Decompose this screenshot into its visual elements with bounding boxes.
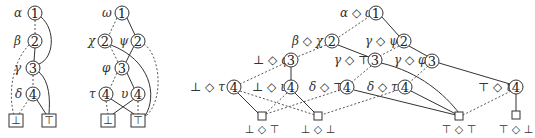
leaf-top-bot [512, 111, 520, 119]
node-l2: 2 [28, 34, 42, 49]
edge-l4-bot [19, 99, 29, 114]
leaf-bottom: ⊥ [101, 114, 115, 127]
left-diagram: α 1 β 2 γ 3 δ 4 ⊥ ⊤ [9, 6, 56, 128]
edge-l2-l3 [34, 48, 35, 61]
edge-m2b-top [144, 44, 158, 117]
node-r3a: 3 [284, 53, 298, 68]
leaf-label: ⊤ ◇ ⊤ [442, 123, 477, 136]
svg-text:3: 3 [428, 54, 436, 69]
leaf-bot-top [258, 112, 266, 120]
edge-r4d-rtt [411, 91, 456, 114]
node-l4: 4 [26, 87, 40, 102]
node-r4a: 4 [227, 80, 241, 95]
edge-m2b-m3 [126, 46, 134, 62]
edge-r4e-rtt [463, 91, 511, 115]
svg-text:2: 2 [400, 34, 408, 49]
node-l1: 1 [28, 6, 42, 21]
node-label: ⊤ ◇ υ [478, 80, 513, 94]
svg-text:2: 2 [328, 34, 336, 49]
svg-text:4: 4 [230, 80, 238, 95]
svg-text:4: 4 [287, 80, 295, 95]
node-m4b: 4 [131, 87, 145, 102]
leaf-label: ⊥ ◇ ⊥ [301, 123, 336, 136]
node-r2a: 2 [325, 34, 339, 49]
svg-text:⊤: ⊤ [133, 114, 143, 127]
node-m1: 1 [115, 6, 129, 21]
svg-text:3: 3 [371, 53, 379, 68]
node-r1: 1 [369, 6, 383, 21]
leaf-top: ⊤ [42, 114, 56, 127]
svg-text:3: 3 [29, 61, 37, 76]
svg-text:1: 1 [372, 6, 380, 21]
node-label: γ ◇ φ [394, 53, 427, 67]
node-r3b: 3 [368, 53, 382, 68]
node-label: δ ◇ ⊤ [309, 80, 344, 94]
node-m2b: 2 [131, 34, 145, 49]
edge-r4a-rbb [240, 91, 315, 115]
node-label: ψ [119, 34, 129, 48]
node-label: δ ◇ τ [367, 80, 398, 94]
svg-text:2: 2 [101, 34, 109, 49]
node-label: υ [121, 87, 128, 101]
svg-text:⊤: ⊤ [44, 114, 54, 127]
svg-text:4: 4 [102, 87, 110, 102]
node-label: γ ◇ ψ [365, 34, 399, 48]
svg-text:1: 1 [31, 6, 39, 21]
edge-l4-top [37, 100, 46, 114]
svg-text:4: 4 [343, 80, 351, 95]
svg-text:4: 4 [512, 80, 520, 95]
node-label: γ ◇ ⊤ [334, 53, 369, 67]
edge-l3-top [39, 72, 49, 114]
node-label: φ [102, 61, 111, 75]
svg-text:2: 2 [31, 34, 39, 49]
node-label: β ◇ χ [291, 34, 324, 48]
node-r4d: 4 [398, 80, 412, 95]
leaf-label: ⊥ ◇ ⊤ [245, 123, 280, 136]
svg-text:4: 4 [134, 87, 142, 102]
node-label: ⊥ ◇ υ [252, 80, 287, 94]
svg-text:2: 2 [134, 34, 142, 49]
edge-m3-m4a [110, 73, 117, 88]
node-l3: 3 [26, 61, 40, 76]
node-r3c: 3 [425, 54, 439, 69]
svg-text:1: 1 [118, 6, 126, 21]
node-r2b: 2 [397, 34, 411, 49]
edge-l2-bot [11, 45, 29, 115]
node-m2a: 2 [98, 34, 112, 49]
node-label: ω [102, 6, 112, 20]
middle-diagram: ω 1 χ 2 ψ 2 φ 3 τ 4 υ 4 ⊥ ⊤ [87, 6, 158, 128]
edge-r4b-rbb [295, 93, 316, 114]
node-label: ⊥ ◇ τ [190, 80, 225, 94]
svg-text:3: 3 [118, 61, 126, 76]
bdd-diagrams: α 1 β 2 γ 3 δ 4 ⊥ ⊤ ω 1 χ 2 ψ 2 φ 3 τ [0, 0, 535, 138]
node-label: τ [89, 87, 96, 101]
leaf-bot-bot [314, 112, 322, 120]
edge-m1-m2b [127, 18, 135, 35]
leaf-top: ⊤ [131, 114, 145, 127]
edge-m1-m2a [109, 18, 117, 35]
svg-text:4: 4 [29, 87, 37, 102]
node-r4e: 4 [509, 80, 523, 95]
node-r4c: 4 [340, 80, 354, 95]
edge-m2a-m3 [110, 46, 118, 62]
leaf-top-top [455, 112, 463, 120]
node-r4b: 4 [284, 80, 298, 95]
node-label: χ [87, 34, 96, 48]
node-m3: 3 [115, 61, 129, 76]
svg-text:3: 3 [287, 53, 295, 68]
svg-text:4: 4 [401, 80, 409, 95]
leaf-label: ⊤ ◇ ⊥ [499, 123, 534, 136]
edge-r4b-rbt [265, 93, 287, 114]
node-m4a: 4 [99, 87, 113, 102]
node-label: β [13, 34, 21, 48]
node-label: α [14, 6, 22, 20]
edge-m4a-bot [106, 101, 108, 114]
right-product-diagram: α ◇ ω 1 β ◇ χ 2 γ ◇ ψ 2 ⊥ ◇ φ 3 γ ◇ ⊤ 3 … [190, 6, 533, 137]
node-label: γ [14, 61, 22, 75]
node-label: δ [15, 87, 22, 101]
leaf-bottom: ⊥ [9, 114, 23, 127]
svg-text:⊥: ⊥ [11, 114, 21, 127]
svg-text:⊥: ⊥ [103, 114, 113, 127]
